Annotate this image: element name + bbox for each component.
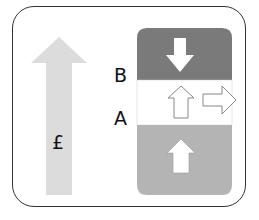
label-b: B: [114, 64, 127, 86]
money-up-arrow-icon: [31, 37, 87, 195]
currency-symbol: £: [52, 131, 64, 153]
diagram-graphics: [0, 0, 259, 220]
label-a: A: [114, 107, 127, 129]
